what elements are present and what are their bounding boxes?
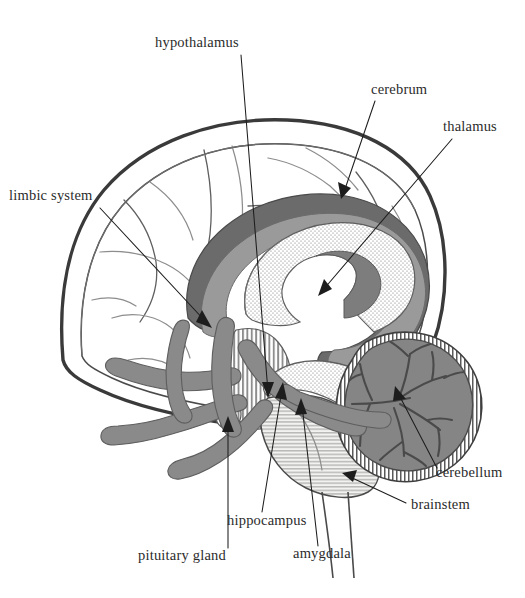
label-text-cerebellum: cerebellum — [436, 464, 503, 480]
label-text-hippocampus: hippocampus — [227, 512, 307, 528]
structure-cerebellum — [336, 332, 482, 482]
label-text-limbic-system: limbic system — [9, 187, 93, 203]
label-text-hypothalamus: hypothalamus — [155, 34, 239, 50]
label-text-amygdala: amygdala — [293, 545, 351, 561]
label-text-thalamus: thalamus — [443, 118, 497, 134]
brain-anatomy-illustration: hypothalamus limbic system cerebrum thal… — [0, 0, 525, 598]
brain-diagram-figure: hypothalamus limbic system cerebrum thal… — [0, 0, 525, 598]
label-text-cerebrum: cerebrum — [371, 81, 428, 97]
label-text-brainstem: brainstem — [411, 496, 471, 512]
label-text-pituitary-gland: pituitary gland — [138, 547, 227, 563]
